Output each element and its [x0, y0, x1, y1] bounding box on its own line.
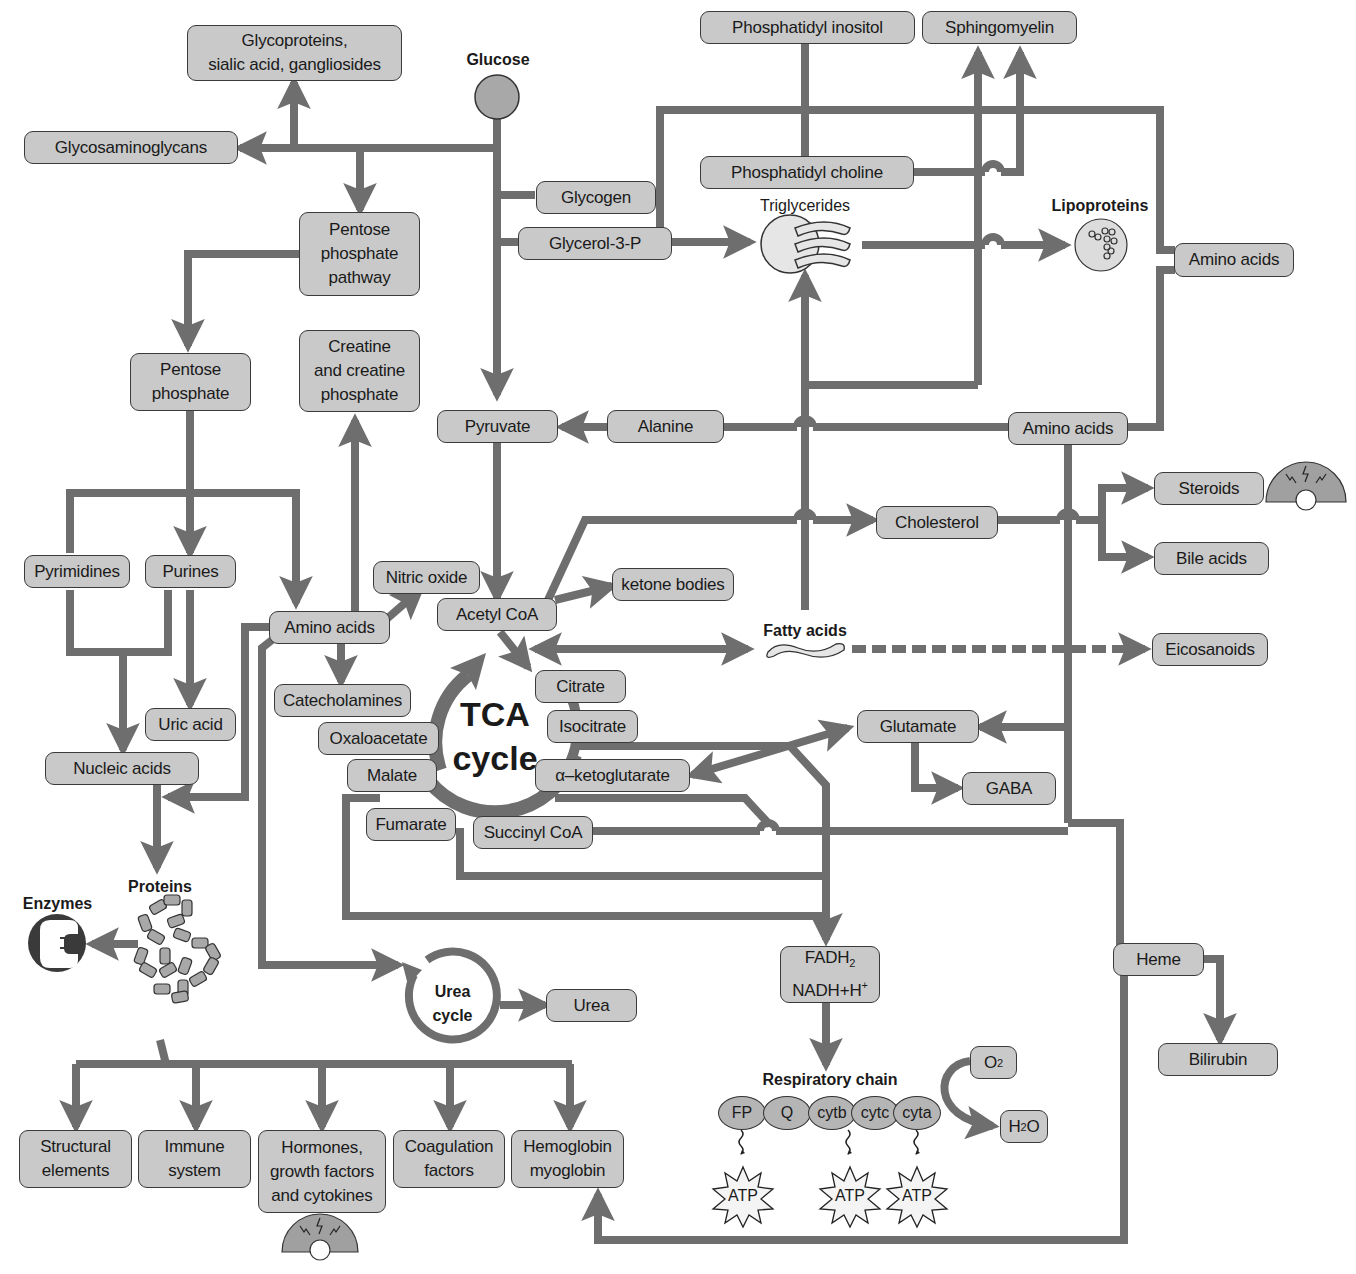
node-alpha-ketoglutarate: α–ketoglutarate [535, 759, 690, 792]
node-steroids: Steroids [1154, 472, 1264, 505]
fadh2-text: FADH2 [805, 947, 855, 974]
node-urea: Urea [546, 989, 637, 1022]
complex-cytb: cytb [808, 1096, 856, 1130]
complex-fp: FP [718, 1096, 766, 1130]
node-amino-acids-right: Amino acids [1174, 243, 1294, 277]
node-purines: Purines [145, 555, 236, 588]
node-hormones: Hormones, growth factors and cytokines [258, 1130, 386, 1213]
node-succinyl-coa: Succinyl CoA [473, 816, 593, 849]
node-structural-elements: Structural elements [19, 1130, 132, 1188]
node-phosphatidyl-choline: Phosphatidyl choline [700, 156, 914, 189]
node-citrate: Citrate [535, 670, 626, 703]
urea-cycle-label: Urea cycle [415, 980, 490, 1028]
enzyme-icon [28, 914, 86, 972]
node-isocitrate: Isocitrate [547, 710, 638, 743]
complex-q: Q [763, 1096, 811, 1130]
node-fumarate: Fumarate [366, 808, 456, 841]
node-glutamate: Glutamate [857, 710, 979, 743]
node-fadh2-nadh: FADH2 NADH+H+ [780, 946, 880, 1003]
node-glycosaminoglycans: Glycosaminoglycans [24, 131, 238, 164]
node-heme: Heme [1113, 943, 1204, 976]
node-creatine: Creatine and creatine phosphate [299, 330, 420, 412]
node-eicosanoids: Eicosanoids [1152, 633, 1268, 666]
node-h2o: H2O [1000, 1110, 1048, 1143]
node-pentose-phosphate-pathway: Pentose phosphate pathway [299, 212, 420, 296]
atp-label-1: ATP [713, 1187, 773, 1205]
fatty-acids-label: Fatty acids [745, 622, 865, 640]
node-alanine: Alanine [607, 410, 724, 443]
atp-label-3: ATP [887, 1187, 947, 1205]
nadh-text: NADH+H+ [792, 974, 867, 1002]
node-glycogen: Glycogen [536, 181, 656, 214]
complex-cyta: cyta [893, 1096, 941, 1130]
node-glycerol-3-p: Glycerol-3-P [518, 227, 672, 260]
node-bile-acids: Bile acids [1154, 542, 1269, 575]
node-acetyl-coa: Acetyl CoA [437, 598, 557, 631]
node-uric-acid: Uric acid [145, 708, 236, 741]
node-ketone-bodies: ketone bodies [612, 568, 734, 601]
node-pyruvate: Pyruvate [437, 410, 558, 443]
enzymes-label: Enzymes [10, 895, 105, 913]
protein-chain-icon [134, 895, 222, 1003]
node-gaba: GABA [962, 772, 1056, 805]
pathway-lines [70, 44, 1220, 1240]
node-catecholamines: Catecholamines [274, 684, 411, 717]
glucose-label: Glucose [458, 51, 538, 69]
node-hemoglobin-myoglobin: Hemoglobin myoglobin [511, 1130, 624, 1188]
proteins-label: Proteins [110, 878, 210, 896]
node-bilirubin: Bilirubin [1158, 1043, 1278, 1076]
receptor-icon-hormones [282, 1214, 358, 1260]
node-nitric-oxide: Nitric oxide [373, 561, 480, 594]
node-glycoproteins: Glycoproteins, sialic acid, gangliosides [187, 25, 402, 81]
node-cholesterol: Cholesterol [876, 506, 998, 539]
lipoprotein-icon [1075, 219, 1127, 271]
node-immune-system: Immune system [138, 1130, 251, 1188]
node-amino-acids-left: Amino acids [269, 611, 390, 644]
node-pentose-phosphate: Pentose phosphate [130, 353, 251, 411]
fatty-acid-icon [767, 644, 844, 658]
node-nucleic-acids: Nucleic acids [45, 752, 199, 785]
respiratory-chain-label: Respiratory chain [740, 1071, 920, 1089]
atp-squiggles [739, 1130, 918, 1154]
triglyceride-icon [761, 215, 850, 273]
node-phosphatidyl-inositol: Phosphatidyl inositol [700, 11, 915, 44]
atp-label-2: ATP [820, 1187, 880, 1205]
triglycerides-label: Triglycerides [745, 197, 865, 215]
complex-cytc: cytc [851, 1096, 899, 1130]
node-coagulation-factors: Coagulation factors [393, 1130, 505, 1188]
node-oxaloacetate: Oxaloacetate [318, 722, 439, 755]
node-amino-acids-mid: Amino acids [1008, 412, 1128, 445]
node-sphingomyelin: Sphingomyelin [922, 11, 1077, 44]
node-o2: O2 [970, 1046, 1017, 1079]
node-malate: Malate [347, 759, 437, 792]
lipoproteins-label: Lipoproteins [1040, 197, 1160, 215]
receptor-icon-steroids [1266, 462, 1346, 510]
node-pyrimidines: Pyrimidines [24, 555, 130, 588]
tca-cycle-label: TCA cycle [440, 692, 550, 780]
glucose-icon [475, 75, 519, 119]
